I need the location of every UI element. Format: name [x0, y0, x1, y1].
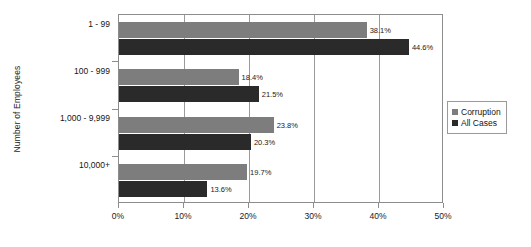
y-axis-tick: [112, 109, 118, 110]
x-axis-tick-label: 0%: [112, 211, 124, 221]
legend-swatch-icon: [452, 120, 458, 126]
bar-value-label: 38.1%: [367, 26, 391, 35]
bar-value-label: 20.3%: [251, 137, 275, 146]
x-axis-tick-label: 20%: [239, 211, 256, 221]
y-axis-label-0: 1 - 99: [0, 19, 110, 29]
bar-all-cases: [119, 39, 409, 55]
bar-row: 13.6%: [119, 181, 442, 197]
bar-value-label: 18.4%: [239, 73, 263, 82]
x-axis-tick-labels: 0%10%20%30%40%50%: [118, 211, 443, 225]
bar-row: 20.3%: [119, 134, 442, 150]
bar-all-cases: [119, 181, 207, 197]
x-axis-tick-label: 10%: [174, 211, 191, 221]
legend-label: Corruption: [461, 107, 501, 117]
y-axis-tick: [112, 156, 118, 157]
bar-row: 21.5%: [119, 86, 442, 102]
bar-chart: Number of Employees 1 - 99100 - 9991,000…: [0, 0, 531, 247]
x-axis-tick: [118, 203, 119, 208]
bar-corruption: [119, 164, 247, 180]
chart-legend: CorruptionAll Cases: [447, 101, 507, 134]
bar-group: 38.1%44.6%: [119, 22, 442, 56]
bar-all-cases: [119, 86, 259, 102]
bar-value-label: 13.6%: [207, 184, 231, 193]
x-axis-tick-label: 40%: [369, 211, 386, 221]
x-axis-tick-label: 50%: [434, 211, 451, 221]
x-axis-tick-label: 30%: [304, 211, 321, 221]
bar-value-label: 21.5%: [259, 90, 283, 99]
y-axis-category-labels: 1 - 99100 - 9991,000 - 9,99910,000+: [0, 0, 118, 189]
plot-area: 38.1%44.6%18.4%21.5%23.8%20.3%19.7%13.6%: [118, 14, 443, 203]
y-axis-label-1: 100 - 999: [0, 66, 110, 76]
bar-group: 18.4%21.5%: [119, 69, 442, 103]
legend-item: All Cases: [452, 118, 501, 128]
bar-row: 19.7%: [119, 164, 442, 180]
x-axis-tick: [183, 203, 184, 208]
legend-label: All Cases: [461, 118, 497, 128]
bar-group: 19.7%13.6%: [119, 164, 442, 198]
bar-row: 38.1%: [119, 22, 442, 38]
bar-value-label: 44.6%: [409, 43, 433, 52]
legend-item: Corruption: [452, 107, 501, 117]
bar-corruption: [119, 69, 239, 85]
bar-row: 23.8%: [119, 117, 442, 133]
x-axis-tick: [443, 203, 444, 208]
x-axis-ticks: [118, 203, 443, 209]
bar-corruption: [119, 117, 274, 133]
y-axis-label-3: 10,000+: [0, 160, 110, 170]
x-axis-tick: [248, 203, 249, 208]
bar-row: 18.4%: [119, 69, 442, 85]
bar-value-label: 23.8%: [274, 120, 298, 129]
bar-all-cases: [119, 134, 251, 150]
x-axis-tick: [313, 203, 314, 208]
bar-value-label: 19.7%: [247, 167, 271, 176]
bar-corruption: [119, 22, 367, 38]
bar-group: 23.8%20.3%: [119, 117, 442, 151]
legend-swatch-icon: [452, 109, 458, 115]
y-axis-tick: [112, 61, 118, 62]
bar-row: 44.6%: [119, 39, 442, 55]
y-axis-label-2: 1,000 - 9,999: [0, 113, 110, 123]
x-axis-tick: [378, 203, 379, 208]
